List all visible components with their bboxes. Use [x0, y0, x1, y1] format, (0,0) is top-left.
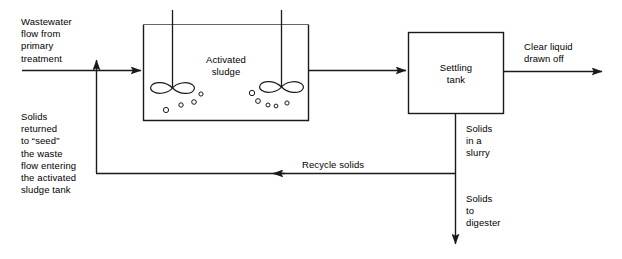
process-flow-diagram: Wastewater flow from primary treatment S…: [0, 0, 622, 259]
solids-to-digester-label: Solids to digester: [466, 193, 501, 230]
influent-flow-label: Wastewater flow from primary treatment: [21, 16, 72, 65]
return-sludge-label: Solids returned to “seed” the waste flow…: [21, 111, 76, 196]
diagram-canvas: [0, 0, 622, 259]
aeration-tank-label: Activated sludge: [186, 54, 266, 78]
settling-tank-label: Settling tank: [413, 62, 499, 86]
solids-slurry-label: Solids in a slurry: [466, 123, 492, 160]
clear-liquid-label: Clear liquid drawn off: [524, 41, 573, 65]
recycle-solids-label: Recycle solids: [302, 159, 364, 171]
